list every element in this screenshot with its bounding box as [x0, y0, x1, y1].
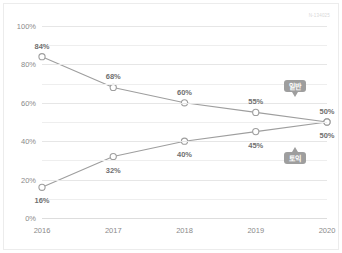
- chart-screenshot: N-134025 0%20%40%60%80%100%2016201720182…: [0, 0, 342, 253]
- gridline: [42, 64, 327, 65]
- gridline: [42, 218, 327, 219]
- data-point-label: 50%: [319, 107, 334, 116]
- plot-area: 0%20%40%60%80%100%2016201720182019202084…: [42, 26, 327, 218]
- data-point-marker[interactable]: [110, 153, 116, 159]
- gridline: [42, 122, 327, 123]
- series-callout-1: 일반: [284, 80, 306, 92]
- data-point-label: 40%: [177, 150, 192, 159]
- callout-tail: [292, 92, 298, 97]
- x-axis-tick-label: 2018: [176, 226, 193, 235]
- y-axis-tick-label: 40%: [21, 137, 36, 146]
- y-axis-tick-label: 0%: [25, 214, 36, 223]
- callout-tail: [292, 147, 298, 152]
- figure-frame: N-134025 0%20%40%60%80%100%2016201720182…: [3, 3, 339, 250]
- data-point-label: 16%: [34, 196, 49, 205]
- x-axis-tick-label: 2020: [319, 226, 336, 235]
- data-point-marker[interactable]: [253, 129, 259, 135]
- x-axis-tick-label: 2017: [105, 226, 122, 235]
- gridline: [42, 26, 327, 27]
- watermark-text: N-134025: [309, 13, 330, 18]
- data-point-label: 60%: [177, 87, 192, 96]
- series-callout-2: 토익: [284, 152, 306, 164]
- gridline: [42, 45, 327, 46]
- data-point-label: 84%: [34, 41, 49, 50]
- data-point-label: 50%: [319, 131, 334, 140]
- data-point-marker[interactable]: [110, 84, 116, 90]
- data-point-marker[interactable]: [39, 184, 45, 190]
- x-axis-tick-label: 2019: [247, 226, 264, 235]
- gridline: [42, 103, 327, 104]
- series-callout-label: 토익: [289, 155, 301, 162]
- data-point-label: 32%: [106, 165, 121, 174]
- data-point-label: 55%: [248, 97, 263, 106]
- gridline: [42, 199, 327, 200]
- data-point-label: 45%: [248, 140, 263, 149]
- data-point-marker[interactable]: [253, 109, 259, 115]
- series-callout-label: 일반: [289, 83, 301, 90]
- y-axis-tick-label: 100%: [17, 22, 36, 31]
- x-axis-tick-label: 2016: [34, 226, 51, 235]
- y-axis-tick-label: 60%: [21, 98, 36, 107]
- data-point-marker[interactable]: [39, 54, 45, 60]
- y-axis-tick-label: 20%: [21, 175, 36, 184]
- data-point-label: 68%: [106, 72, 121, 81]
- gridline: [42, 141, 327, 142]
- y-axis-tick-label: 80%: [21, 60, 36, 69]
- gridline: [42, 180, 327, 181]
